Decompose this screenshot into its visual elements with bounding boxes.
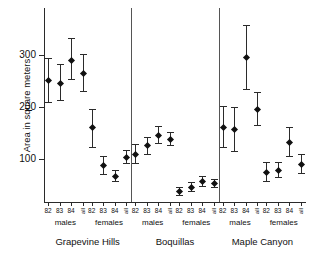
x-tick: [202, 202, 203, 206]
error-bar-cap: [132, 163, 139, 164]
x-tick: [135, 202, 136, 206]
x-tick-label: 84: [239, 207, 253, 214]
x-tick-label: 84: [195, 207, 209, 214]
x-tick: [191, 202, 192, 206]
error-bar-cap: [231, 107, 238, 108]
x-tick: [147, 202, 148, 206]
error-bar-cap: [45, 102, 52, 103]
error-bar-cap: [220, 147, 227, 148]
error-bar-cap: [286, 127, 293, 128]
panel-divider: [219, 8, 220, 202]
y-axis-line: [44, 8, 45, 202]
x-tick: [48, 202, 49, 206]
error-bar-cap: [176, 195, 183, 196]
error-bar-cap: [68, 38, 75, 39]
chart-container: Area in square meters 100200300828384all…: [0, 0, 312, 262]
x-tick-label: 84: [108, 207, 122, 214]
error-bar-cap: [199, 186, 206, 187]
x-tick-label: all: [298, 204, 304, 218]
y-tick: [39, 55, 44, 56]
x-tick-label: 84: [64, 207, 78, 214]
x-tick-label: 84: [282, 207, 296, 214]
error-bar-cap: [123, 163, 130, 164]
error-bar-cap: [286, 156, 293, 157]
x-tick: [115, 202, 116, 206]
error-bar-cap: [89, 147, 96, 148]
error-bar-cap: [112, 170, 119, 171]
error-bar-cap: [167, 132, 174, 133]
error-bar-cap: [254, 125, 261, 126]
x-tick: [92, 202, 93, 206]
x-tick: [179, 202, 180, 206]
error-bar-cap: [144, 154, 151, 155]
error-bar-cap: [100, 174, 107, 175]
x-tick: [289, 202, 290, 206]
x-tick: [234, 202, 235, 206]
error-bar-cap: [112, 181, 119, 182]
panel-divider: [131, 8, 132, 202]
error-bar-cap: [231, 151, 238, 152]
group-label: females: [254, 218, 312, 227]
panel-label: Maple Canyon: [202, 236, 312, 247]
x-tick-label: 84: [151, 207, 165, 214]
error-bar-cap: [254, 92, 261, 93]
x-tick: [266, 202, 267, 206]
error-bar-cap: [199, 176, 206, 177]
error-bar-cap: [298, 173, 305, 174]
error-bar-cap: [68, 79, 75, 80]
error-bar-cap: [275, 162, 282, 163]
error-bar-cap: [263, 162, 270, 163]
error-bar-cap: [100, 156, 107, 157]
x-tick: [223, 202, 224, 206]
y-tick-label: 100: [0, 154, 36, 164]
error-bar-cap: [167, 145, 174, 146]
error-bar-cap: [57, 64, 64, 65]
error-bar-cap: [123, 150, 130, 151]
x-tick: [60, 202, 61, 206]
y-tick-label: 300: [0, 50, 36, 60]
x-tick: [158, 202, 159, 206]
y-tick-label: 200: [0, 102, 36, 112]
error-bar-cap: [132, 144, 139, 145]
error-bar-cap: [298, 154, 305, 155]
error-bar-cap: [80, 91, 87, 92]
x-tick: [246, 202, 247, 206]
y-tick: [39, 159, 44, 160]
error-bar-cap: [80, 54, 87, 55]
error-bar-cap: [220, 106, 227, 107]
y-tick: [39, 107, 44, 108]
x-tick: [103, 202, 104, 206]
error-bar-cap: [57, 100, 64, 101]
error-bar-cap: [89, 109, 96, 110]
error-bar-cap: [45, 58, 52, 59]
error-bar-cap: [275, 177, 282, 178]
error-bar-cap: [155, 126, 162, 127]
error-bar-cap: [155, 143, 162, 144]
error-bar-cap: [243, 89, 250, 90]
error-bar-cap: [144, 137, 151, 138]
x-tick: [278, 202, 279, 206]
error-bar-cap: [263, 181, 270, 182]
error-bar-cap: [243, 25, 250, 26]
x-tick: [71, 202, 72, 206]
